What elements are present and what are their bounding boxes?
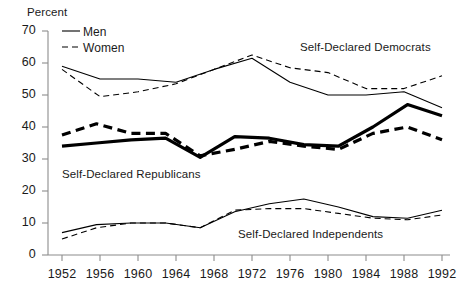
y-tick-70: 70 — [6, 23, 36, 37]
y-tick-40: 40 — [6, 119, 36, 133]
y-tick-20: 20 — [6, 183, 36, 197]
x-tick-1992: 1992 — [422, 267, 462, 281]
annotation-0: Self-Declared Democrats — [300, 41, 431, 53]
x-tick-1980: 1980 — [308, 267, 348, 281]
y-tick-60: 60 — [6, 55, 36, 69]
series-line-0 — [62, 58, 442, 108]
x-tick-1952: 1952 — [42, 267, 82, 281]
x-tick-1956: 1956 — [80, 267, 120, 281]
y-tick-10: 10 — [6, 215, 36, 229]
series-line-1 — [62, 55, 442, 97]
x-tick-1988: 1988 — [384, 267, 424, 281]
annotation-2: Self-Declared Independents — [238, 228, 383, 240]
x-tick-1984: 1984 — [346, 267, 386, 281]
x-tick-1960: 1960 — [118, 267, 158, 281]
legend-label-women: Women — [83, 41, 125, 55]
x-tick-1964: 1964 — [156, 267, 196, 281]
x-tick-1968: 1968 — [194, 267, 234, 281]
y-tick-50: 50 — [6, 87, 36, 101]
x-tick-1972: 1972 — [232, 267, 272, 281]
y-tick-30: 30 — [6, 151, 36, 165]
legend-label-men: Men — [83, 25, 107, 39]
y-tick-0: 0 — [6, 247, 36, 261]
annotation-1: Self-Declared Republicans — [62, 168, 201, 180]
x-tick-1976: 1976 — [270, 267, 310, 281]
chart-root: Percent 010203040506070 1952195619601964… — [0, 0, 462, 292]
